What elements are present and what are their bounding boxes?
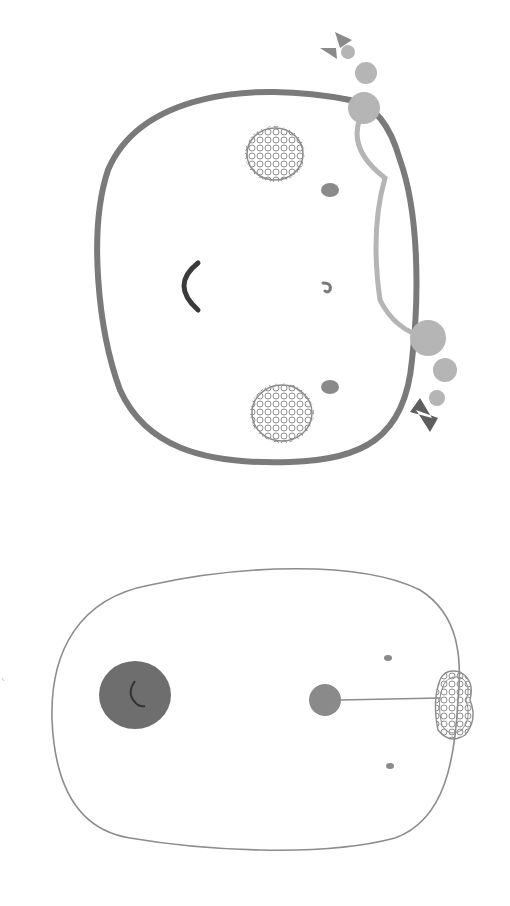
eye-dot-bottom xyxy=(321,380,339,394)
blush-scribble-bottom xyxy=(250,383,314,443)
open-mouth xyxy=(99,661,171,729)
hair-bun-scribble xyxy=(435,671,473,739)
top-face xyxy=(97,32,457,462)
illustration-canvas xyxy=(0,0,510,906)
nose xyxy=(323,283,330,292)
edge-mark xyxy=(2,678,4,681)
mouth-arc xyxy=(184,263,198,310)
eye-dot-top xyxy=(321,183,339,197)
eye-dot-bottom xyxy=(386,763,394,769)
bottom-face xyxy=(52,569,473,850)
nose-ball xyxy=(309,684,341,716)
pigtail-bow-top xyxy=(320,32,380,124)
blush-scribble-top xyxy=(245,126,305,182)
stem-line xyxy=(340,698,440,700)
eye-dot-top xyxy=(384,655,392,661)
pigtail-bow-bottom xyxy=(410,320,457,432)
